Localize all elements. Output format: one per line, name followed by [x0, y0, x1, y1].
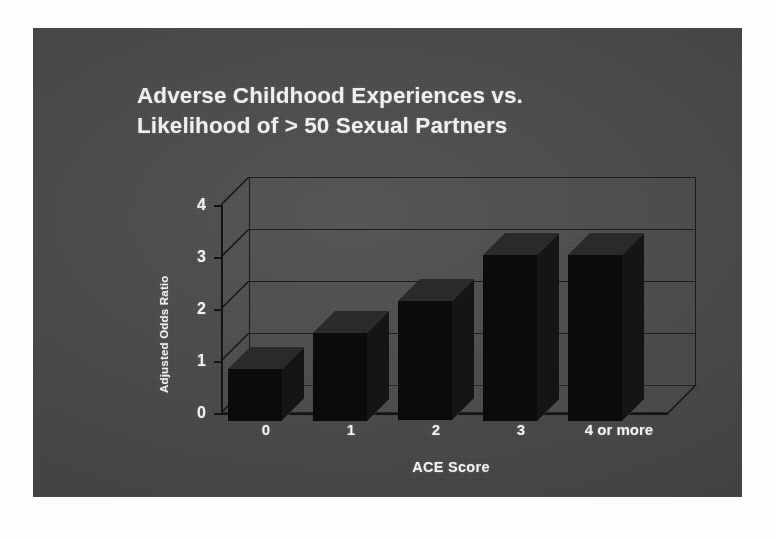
gridline-connector-2 — [221, 281, 249, 309]
gridline-3 — [249, 229, 696, 230]
slide-title: Adverse Childhood Experiences vs. Likeli… — [137, 81, 697, 141]
gridline-connector-3 — [221, 229, 249, 257]
x-tick-label-2: 2 — [432, 421, 440, 438]
x-axis-tick-labels: 0 1 2 3 4 or more — [221, 421, 681, 447]
x-tick-label-0: 0 — [262, 421, 270, 438]
x-axis-title: ACE Score — [221, 459, 681, 475]
y-axis-tick-2 — [214, 309, 222, 311]
x-tick-label-4: 4 or more — [585, 421, 653, 438]
bar-ace-4 — [568, 233, 650, 435]
presentation-slide: Adverse Childhood Experiences vs. Likeli… — [33, 28, 742, 497]
bar-ace-2 — [398, 279, 480, 435]
scanned-page: Adverse Childhood Experiences vs. Likeli… — [0, 0, 777, 541]
x-tick-label-1: 1 — [347, 421, 355, 438]
bar-ace-1 — [313, 311, 395, 435]
gridline-4 — [249, 177, 696, 178]
y-tick-label-2: 2 — [197, 300, 206, 318]
bar-chart: Adjusted Odds Ratio — [136, 173, 696, 488]
y-tick-label-3: 3 — [197, 248, 206, 266]
y-tick-label-4: 4 — [197, 196, 206, 214]
plot-area: 4 3 2 1 0 — [136, 173, 696, 443]
slide-title-line-2: Likelihood of > 50 Sexual Partners — [137, 111, 697, 141]
y-tick-label-1: 1 — [197, 352, 206, 370]
gridline-connector-4 — [221, 177, 249, 205]
y-tick-label-0: 0 — [197, 404, 206, 422]
y-axis-tick-1 — [214, 361, 222, 363]
x-tick-label-3: 3 — [517, 421, 525, 438]
bar-ace-3 — [483, 233, 565, 435]
y-axis-tick-4 — [214, 205, 222, 207]
y-axis-tick-3 — [214, 257, 222, 259]
slide-title-line-1: Adverse Childhood Experiences vs. — [137, 83, 523, 108]
